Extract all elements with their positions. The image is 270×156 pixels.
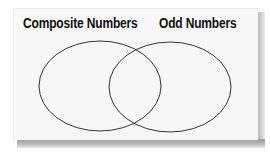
odd-numbers-label: Odd Numbers: [159, 14, 237, 31]
composite-numbers-circle: [39, 41, 161, 131]
odd-numbers-circle: [109, 42, 231, 132]
composite-numbers-label: Composite Numbers: [23, 14, 138, 31]
